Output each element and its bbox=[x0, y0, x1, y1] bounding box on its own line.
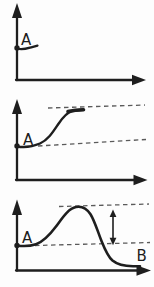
label-a-middle: A bbox=[23, 131, 34, 149]
label-a-top: A bbox=[21, 31, 32, 49]
x-axis-arrowhead-icon bbox=[134, 175, 148, 185]
peak-guide-dashed-line bbox=[59, 204, 149, 207]
panel-top: A bbox=[12, 3, 146, 85]
peak-curve bbox=[17, 207, 140, 267]
curve-end-thick-stroke bbox=[68, 110, 84, 112]
y-axis-arrowhead-icon bbox=[12, 200, 22, 216]
y-axis-arrowhead-icon bbox=[12, 3, 22, 18]
y-axis-arrowhead-icon bbox=[12, 99, 22, 114]
lower-guide-dashed-line bbox=[38, 140, 146, 147]
start-guide-dashed-line bbox=[35, 243, 150, 246]
upper-guide-dashed-line bbox=[48, 105, 145, 108]
gap-arrow-up-arrowhead-icon bbox=[110, 210, 117, 218]
label-a-bottom: A bbox=[22, 229, 33, 247]
sketch-svg: A A A B bbox=[0, 0, 154, 287]
x-axis-arrowhead-icon bbox=[132, 75, 146, 85]
panel-middle: A bbox=[12, 99, 148, 185]
label-b-bottom: B bbox=[137, 247, 147, 265]
panel-bottom: A B bbox=[12, 200, 151, 276]
sketch-figure: A A A B bbox=[0, 0, 154, 287]
